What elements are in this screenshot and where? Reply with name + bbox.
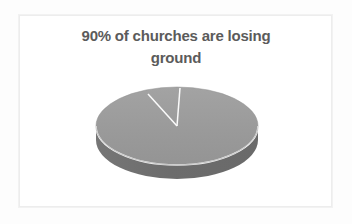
chart-title-line-1: 90% of churches are losing xyxy=(30,25,322,47)
slide-canvas: 90% of churches are losing ground xyxy=(0,0,352,224)
chart-title: 90% of churches are losing ground xyxy=(30,25,322,69)
pie-chart xyxy=(90,84,266,188)
pie-chart-icon xyxy=(90,84,266,188)
chart-title-line-2: ground xyxy=(30,47,322,69)
